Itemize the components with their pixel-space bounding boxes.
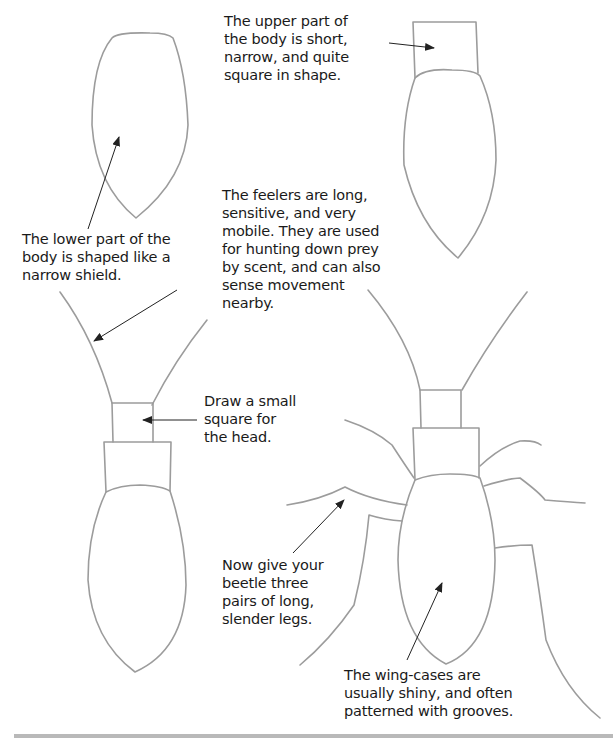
caption-line: mobile. They are used xyxy=(222,222,380,240)
caption-line: patterned with grooves. xyxy=(344,702,513,720)
step1-shield-outline xyxy=(92,33,188,218)
footer-divider xyxy=(14,734,613,738)
caption-line: narrow, and quite xyxy=(224,48,349,66)
caption-line: sensitive, and very xyxy=(222,204,380,222)
caption-feelers: The feelers are long, sensitive, and ver… xyxy=(222,186,380,312)
caption-line: sense movement xyxy=(222,276,380,294)
step4-head-square xyxy=(420,390,461,428)
caption-line: for hunting down prey xyxy=(222,240,380,258)
caption-lower-body: The lower part of the body is shaped lik… xyxy=(22,230,170,284)
step4-thorax-square xyxy=(413,428,479,480)
step3-shield-outline xyxy=(88,485,186,672)
caption-head: Draw a small square for the head. xyxy=(204,392,296,446)
arrow-to-feelers xyxy=(94,290,177,341)
arrow-to-legs xyxy=(293,500,344,553)
caption-line: beetle three xyxy=(222,574,324,592)
caption-line: Draw a small xyxy=(204,392,296,410)
step4-leg-mid-left xyxy=(287,487,407,505)
caption-line: the body is short, xyxy=(224,30,349,48)
caption-line: The wing-cases are xyxy=(344,666,513,684)
step4-leg-front-left xyxy=(345,420,414,478)
caption-wing-cases: The wing-cases are usually shiny, and of… xyxy=(344,666,513,720)
caption-line: usually shiny, and often xyxy=(344,684,513,702)
caption-legs: Now give your beetle three pairs of long… xyxy=(222,556,324,628)
step3-head-square xyxy=(112,403,153,442)
caption-line: square for xyxy=(204,410,296,428)
caption-line: body is shaped like a xyxy=(22,248,170,266)
step4-right-feeler xyxy=(462,292,527,390)
caption-line: The upper part of xyxy=(224,12,349,30)
step4-shield-outline xyxy=(398,474,495,664)
caption-upper-body: The upper part of the body is short, nar… xyxy=(224,12,349,84)
caption-line: by scent, and can also xyxy=(222,258,380,276)
step2-shield-outline xyxy=(404,70,496,258)
caption-line: square in shape. xyxy=(224,66,349,84)
step3-right-feeler xyxy=(152,320,207,405)
step4-leg-mid-right xyxy=(484,478,585,503)
arrow-to-upper-body xyxy=(389,43,434,48)
caption-line: Now give your xyxy=(222,556,324,574)
caption-line: The feelers are long, xyxy=(222,186,380,204)
caption-line: nearby. xyxy=(222,294,380,312)
caption-line: slender legs. xyxy=(222,610,324,628)
step3-left-feeler xyxy=(60,292,112,403)
step4-leg-front-right xyxy=(480,441,541,466)
caption-line: The lower part of the xyxy=(22,230,170,248)
arrow-to-wing-cases xyxy=(407,583,442,660)
arrow-to-lower-body xyxy=(88,137,119,229)
caption-line: narrow shield. xyxy=(22,266,170,284)
caption-line: pairs of long, xyxy=(222,592,324,610)
caption-line: the head. xyxy=(204,428,296,446)
